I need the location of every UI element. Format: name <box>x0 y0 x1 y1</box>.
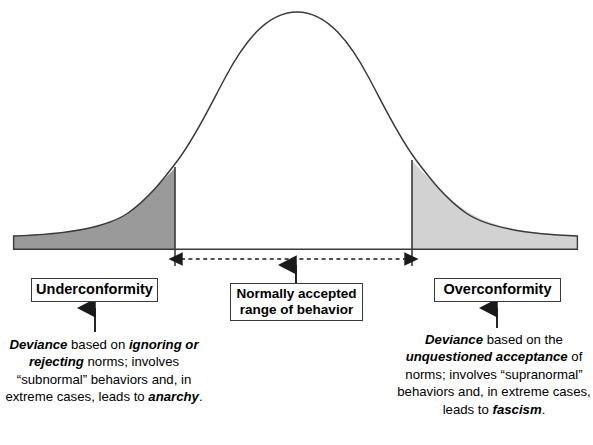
normal-range-label-box: Normally accepted range of behavior <box>230 283 363 321</box>
underconformity-description: Deviance based on ignoring or rejecting … <box>4 336 204 406</box>
deviance-conformity-diagram: Underconformity Overconformity Normally … <box>0 0 593 445</box>
left-tail-region <box>13 168 175 249</box>
overconformity-label-text: Overconformity <box>444 281 552 298</box>
underconformity-label-box: Underconformity <box>31 278 158 302</box>
right-tail-region <box>412 161 578 249</box>
normal-range-label-line2: range of behavior <box>236 302 356 318</box>
overconformity-label-box: Overconformity <box>434 278 561 302</box>
bell-curve-outline <box>13 12 578 236</box>
normal-range-label-line1: Normally accepted <box>236 286 356 302</box>
overconformity-description: Deviance based on the unquestioned accep… <box>396 331 592 418</box>
underconformity-label-text: Underconformity <box>36 281 153 298</box>
normal-range-label-text: Normally accepted range of behavior <box>236 286 356 318</box>
